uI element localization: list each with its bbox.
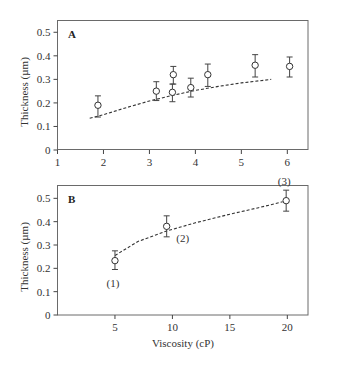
panel-a-x-ticks: 123456 [55,150,291,168]
panel-b-plot: B Thickness (µm) Viscosity (cP) 00.10.20… [18,175,308,350]
y-tick-label: 0.5 [37,192,51,204]
panel-a-y-axis-label: Thickness (µm) [18,57,31,127]
panel-a-y-ticks: 00.10.20.30.40.5 [37,26,58,156]
panel-b-label: B [68,193,76,205]
y-tick-label: 0.2 [37,262,51,274]
panel-b-frame [58,186,309,316]
y-tick-label: 0.4 [37,50,51,62]
y-tick-label: 0.1 [37,286,51,298]
data-point [286,57,292,77]
y-tick-label: 0.3 [37,73,51,85]
point-marker [112,257,118,263]
point-marker [169,89,175,95]
point-marker [95,102,101,108]
y-tick-label: 0.5 [37,26,51,38]
y-tick-label: 0.1 [37,120,51,132]
data-point [170,66,176,84]
x-tick-label: 10 [167,321,179,333]
x-tick-label: 6 [285,156,291,168]
point-marker [286,63,292,69]
figure: A Thickness (µm) 00.10.20.30.40.5 123456… [0,0,341,367]
panel-b-data: (1)(2)(3) [107,175,291,290]
point-marker [283,197,289,203]
data-point [188,78,194,97]
panel-a-data [90,55,293,119]
x-tick-label: 5 [239,156,245,168]
data-point [169,84,175,102]
x-tick-label: 4 [193,156,199,168]
data-point [153,82,159,101]
x-tick-label: 1 [55,156,61,168]
panel-b-x-axis-label: Viscosity (cP) [152,337,214,350]
data-point [205,64,211,86]
fit-curve [115,202,283,256]
point-label: (3) [278,175,291,188]
y-tick-label: 0 [45,144,51,156]
data-point: (2) [163,216,189,246]
point-label: (2) [176,232,189,245]
panel-a-frame [58,21,309,150]
data-point [95,96,101,117]
x-tick-label: 2 [101,156,107,168]
panel-a-plot: A Thickness (µm) 00.10.20.30.40.5 123456 [18,21,308,169]
panel-b-y-ticks: 00.10.20.30.40.5 [37,192,58,321]
y-tick-label: 0.4 [37,216,51,228]
y-tick-label: 0 [45,309,51,321]
fit-curve [90,79,272,118]
panel-b-y-axis-label: Thickness (µm) [18,222,31,292]
point-marker [205,71,211,77]
x-tick-label: 20 [282,321,294,333]
point-marker [170,71,176,77]
point-marker [252,62,258,68]
y-tick-label: 0.2 [37,97,51,109]
x-tick-label: 5 [112,321,118,333]
x-tick-label: 15 [224,321,236,333]
x-tick-label: 3 [147,156,153,168]
point-marker [163,223,169,229]
data-point: (1) [107,251,120,290]
data-point: (3) [278,175,291,212]
data-point [252,55,258,77]
point-marker [153,88,159,94]
point-marker [188,84,194,90]
panel-a-label: A [68,28,76,40]
point-label: (1) [107,277,120,290]
panel-b-x-ticks: 5101520 [112,315,293,333]
y-tick-label: 0.3 [37,239,51,251]
